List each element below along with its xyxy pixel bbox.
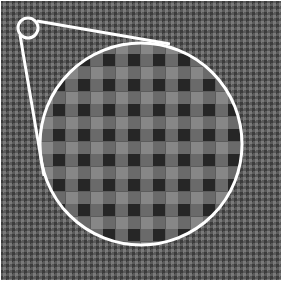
magnifier-view: Magnified pixel pattern xyxy=(0,0,282,281)
magnifier-illustration xyxy=(0,0,282,281)
